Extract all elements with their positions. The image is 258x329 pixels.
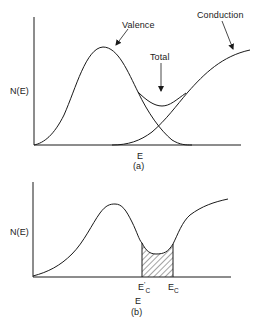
panel-a-y-axis-label: N(E) xyxy=(10,86,29,96)
ec-prime-label: E'C xyxy=(138,282,150,293)
conduction-curve xyxy=(112,50,250,145)
panel-a-x-axis-label: E xyxy=(137,151,143,161)
panel-b-y-axis-label: N(E) xyxy=(10,227,29,237)
shaded-gap-region xyxy=(142,243,173,277)
total-label: Total xyxy=(150,52,170,62)
ec-prime-subscript: C xyxy=(146,287,151,294)
panel-b-dos-curve xyxy=(33,199,228,276)
valence-arrow xyxy=(116,29,128,45)
total-curve xyxy=(138,92,186,106)
ec-subscript: C xyxy=(174,287,179,294)
panel-a xyxy=(34,17,250,145)
ec-label: EC xyxy=(168,282,179,293)
panel-b-caption: (b) xyxy=(131,307,142,317)
panel-a-caption: (a) xyxy=(133,161,144,171)
valence-label: Valence xyxy=(122,20,155,30)
panel-b-x-axis-label: E xyxy=(135,296,141,306)
density-of-states-diagram xyxy=(0,0,258,329)
conduction-label: Conduction xyxy=(197,10,244,20)
conduction-arrow xyxy=(222,21,233,49)
panel-b xyxy=(33,182,231,277)
